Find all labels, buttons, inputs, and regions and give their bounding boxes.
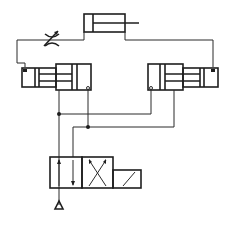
circuit-diagram: [0, 0, 230, 227]
junction-dot: [86, 125, 90, 129]
junction-dot: [57, 112, 61, 116]
top-cylinder: [84, 14, 139, 32]
directional-valve: [50, 157, 141, 188]
solenoid-icon: [123, 172, 135, 186]
right-cylinder: [148, 64, 218, 90]
right-supply-line: [125, 32, 213, 67]
left-cylinder: [22, 64, 91, 90]
throttle-valve-icon: [44, 31, 59, 46]
